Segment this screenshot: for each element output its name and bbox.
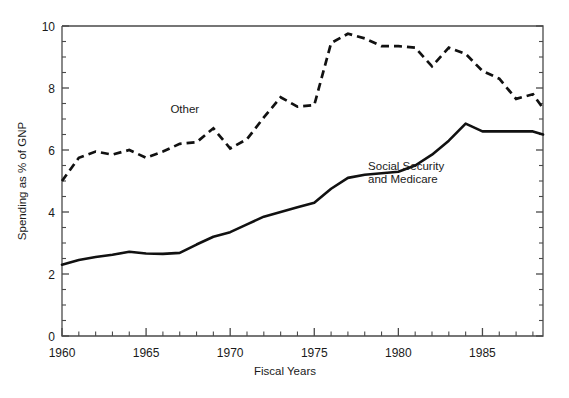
- y-tick-label-8: 8: [48, 82, 55, 96]
- chart-background: [0, 0, 569, 398]
- series-label-social-security-line2: and Medicare: [368, 173, 438, 185]
- x-tick-label-1965: 1965: [133, 346, 160, 360]
- x-axis-title: Fiscal Years: [254, 365, 316, 377]
- x-tick-label-1985: 1985: [469, 346, 496, 360]
- y-tick-label-2: 2: [48, 268, 55, 282]
- series-label-other: Other: [170, 103, 199, 115]
- y-tick-label-4: 4: [48, 206, 55, 220]
- y-tick-label-10: 10: [42, 20, 56, 34]
- x-tick-label-1975: 1975: [301, 346, 328, 360]
- series-label-social-security-line1: Social Security: [368, 160, 444, 172]
- y-tick-label-0: 0: [48, 330, 55, 344]
- x-tick-label-1980: 1980: [385, 346, 412, 360]
- x-tick-label-1960: 1960: [49, 346, 76, 360]
- y-axis-title: Spending as % of GNP: [16, 122, 28, 241]
- y-tick-label-6: 6: [48, 144, 55, 158]
- chart-figure: 196019651970197519801985 0246810 Other S…: [0, 0, 569, 398]
- x-tick-label-1970: 1970: [217, 346, 244, 360]
- line-chart-svg: 196019651970197519801985 0246810 Other S…: [0, 0, 569, 398]
